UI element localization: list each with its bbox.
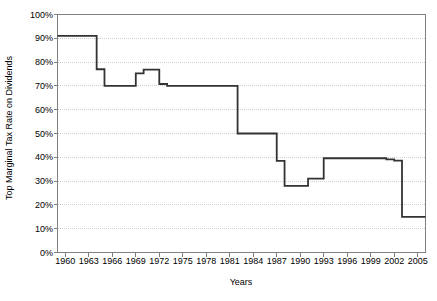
x-axis-tick-label: 1993 [314,256,334,266]
x-axis-tick-label: 1996 [337,256,357,266]
x-axis-tick-label: 1984 [243,256,263,266]
x-axis-tick-label: 2002 [384,256,404,266]
x-axis-tick-label: 1960 [55,256,75,266]
x-axis-tick-label: 1975 [173,256,193,266]
x-axis-tick-label: 1969 [126,256,146,266]
x-axis-tick-label: 1999 [361,256,381,266]
x-axis-title-text: Years [230,277,253,287]
x-axis-tick-label: 1987 [267,256,287,266]
x-axis-tick-label: 1972 [149,256,169,266]
x-axis-tick-label: 1978 [196,256,216,266]
x-axis-tick-label: 2005 [408,256,428,266]
x-axis-tick-label: 1963 [79,256,99,266]
tax-rate-line-chart: Top Marginal Tax Rate on Dividends 0%10%… [0,0,437,301]
x-axis-tick-label: 1990 [290,256,310,266]
x-axis-tick-label: 1981 [220,256,240,266]
y-axis-ticks [54,15,58,253]
x-axis-title: Years [57,277,425,287]
x-axis-tick-label: 1966 [102,256,122,266]
x-axis-tick-labels: 1960196319661969197219751978198119841987… [0,256,437,272]
